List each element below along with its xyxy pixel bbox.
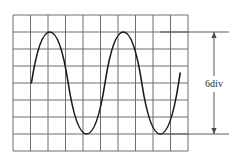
amplitude-label: 6div xyxy=(205,78,223,89)
waveform-diagram: 6div xyxy=(0,0,240,164)
oscilloscope-figure: 6div xyxy=(0,0,240,164)
figure-background xyxy=(0,0,240,164)
